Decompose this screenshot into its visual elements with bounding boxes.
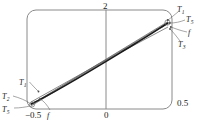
leader-f-left [40,99,50,110]
figure-container: 2 0 −0.5 0.5 T1 T2 T5 f T1 T5 f T3 [0,0,198,127]
leader-tip-T3-right [169,28,171,30]
leader-tip-f-right [170,26,172,28]
leader-tip-T1-left [38,91,40,93]
leader-tip-f-left [39,98,41,100]
leader-T1-left [30,82,39,91]
leader-T5-left [14,106,30,108]
leader-tip-T5-right [169,22,171,24]
leader-f-right [171,27,187,32]
leader-tip-T1-right [167,19,169,21]
plot-canvas [0,0,198,127]
